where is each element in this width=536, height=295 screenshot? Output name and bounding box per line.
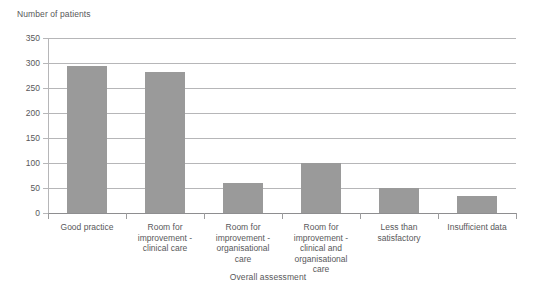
bar xyxy=(67,66,107,214)
gridline-50 xyxy=(48,188,516,189)
x-axis-category-label-line: satisfactory xyxy=(360,233,438,244)
bar xyxy=(223,183,263,213)
x-axis-category-label-line: Less than xyxy=(360,222,438,233)
y-axis-tick-label: 0 xyxy=(10,208,40,218)
gridline-350 xyxy=(48,38,516,39)
y-axis-tick-label: 250 xyxy=(10,83,40,93)
y-tick-200 xyxy=(43,113,48,114)
x-axis-category-label-line: care xyxy=(204,254,282,265)
x-axis-category-label-line: improvement - xyxy=(204,233,282,244)
y-tick-250 xyxy=(43,88,48,89)
y-tick-300 xyxy=(43,63,48,64)
y-tick-100 xyxy=(43,163,48,164)
x-axis-tick xyxy=(48,213,49,219)
x-axis-category-label: Insufficient data xyxy=(438,222,516,233)
x-axis-tick xyxy=(516,213,517,219)
bar xyxy=(301,163,341,213)
bar xyxy=(457,196,497,214)
y-tick-350 xyxy=(43,38,48,39)
gridline-300 xyxy=(48,63,516,64)
x-axis-category-label-line: Good practice xyxy=(48,222,126,233)
gridline-250 xyxy=(48,88,516,89)
x-axis-category-label: Room forimprovement -clinical care xyxy=(126,222,204,254)
x-axis-category-label: Good practice xyxy=(48,222,126,233)
x-axis-category-label-line: Room for xyxy=(126,222,204,233)
x-axis-title: Overall assessment xyxy=(0,272,536,282)
x-axis: Good practiceRoom forimprovement -clinic… xyxy=(48,213,516,273)
y-axis-tick-label: 100 xyxy=(10,158,40,168)
bar xyxy=(145,72,185,214)
x-axis-category-label: Room forimprovement -clinical andorganis… xyxy=(282,222,360,275)
x-axis-category-label: Room forimprovement -organisationalcare xyxy=(204,222,282,264)
y-axis-tick-label: 350 xyxy=(10,33,40,43)
x-axis-category-label-line: organisational xyxy=(204,243,282,254)
x-axis-category-label-line: Room for xyxy=(282,222,360,233)
y-axis-tick-label: 200 xyxy=(10,108,40,118)
y-axis-tick-label: 50 xyxy=(10,183,40,193)
y-tick-50 xyxy=(43,188,48,189)
x-axis-tick xyxy=(282,213,283,219)
y-axis-tick-label: 300 xyxy=(10,58,40,68)
bar xyxy=(379,188,419,214)
x-axis-tick xyxy=(204,213,205,219)
gridline-150 xyxy=(48,138,516,139)
bar-chart: Number of patients 050100150200250300350… xyxy=(0,0,536,295)
y-axis-line xyxy=(48,38,49,213)
y-axis-tick-label: 150 xyxy=(10,133,40,143)
y-tick-150 xyxy=(43,138,48,139)
x-axis-category-label-line: organisational xyxy=(282,254,360,265)
x-axis-category-label-line: clinical and xyxy=(282,243,360,254)
x-axis-category-label-line: improvement - xyxy=(282,233,360,244)
x-axis-category-label-line: Room for xyxy=(204,222,282,233)
x-axis-category-label-line: clinical care xyxy=(126,243,204,254)
y-axis-title: Number of patients xyxy=(17,9,91,19)
x-axis-tick xyxy=(360,213,361,219)
x-axis-category-label: Less thansatisfactory xyxy=(360,222,438,243)
gridline-100 xyxy=(48,163,516,164)
gridline-200 xyxy=(48,113,516,114)
x-axis-tick xyxy=(126,213,127,219)
x-axis-category-label-line: Insufficient data xyxy=(438,222,516,233)
x-axis-category-label-line: improvement - xyxy=(126,233,204,244)
plot-area: 050100150200250300350 xyxy=(48,38,516,213)
x-axis-tick xyxy=(438,213,439,219)
